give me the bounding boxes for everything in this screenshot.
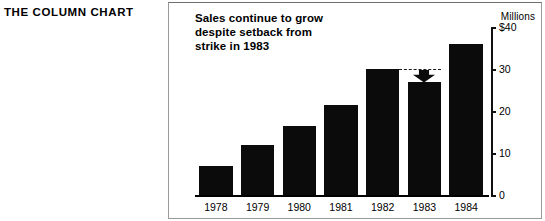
x-axis-label-1981: 1981 [320, 201, 362, 213]
x-axis-label-1979: 1979 [237, 201, 279, 213]
bar-1981 [324, 105, 357, 195]
bar-1983 [408, 82, 441, 195]
x-axis-label-1980: 1980 [278, 201, 320, 213]
bar-1980 [283, 126, 316, 195]
y-tick-0 [491, 195, 496, 197]
bar-1984 [449, 44, 482, 195]
y-tick-30 [491, 69, 496, 71]
y-tick-40 [491, 27, 496, 29]
figure-caption: THE COLUMN CHART [4, 6, 164, 19]
x-axis-label-1983: 1983 [404, 201, 446, 213]
y-tick-label-10: 10 [499, 147, 511, 159]
decline-arrow-icon [413, 69, 435, 82]
y-tick-20 [491, 111, 496, 113]
x-axis-label-1982: 1982 [362, 201, 404, 213]
y-tick-label-0: 0 [499, 189, 505, 201]
y-tick-label-20: 20 [499, 105, 511, 117]
x-axis-label-1984: 1984 [445, 201, 487, 213]
column-chart-figure: THE COLUMN CHART Sales continue to grow … [0, 0, 545, 221]
bar-1978 [199, 166, 232, 195]
bar-1979 [241, 145, 274, 195]
y-tick-10 [491, 153, 496, 155]
chart-panel: Sales continue to grow despite setback f… [168, 2, 542, 219]
x-axis-label-1978: 1978 [195, 201, 237, 213]
bar-1982 [366, 69, 399, 195]
plot-area [195, 27, 487, 195]
x-axis-baseline [195, 195, 489, 197]
y-tick-label-30: 30 [499, 63, 511, 75]
y-axis: $403020100 [491, 27, 543, 197]
chart-title-line-1: Sales continue to grow [195, 11, 323, 25]
y-tick-label-40: $40 [499, 21, 517, 33]
